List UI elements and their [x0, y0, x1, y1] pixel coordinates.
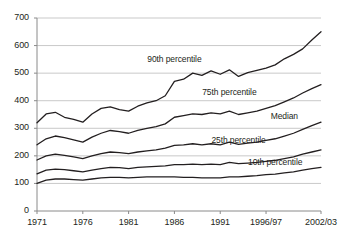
x-tick-label: 1991 [197, 217, 243, 227]
x-tick-label: 1996/97 [243, 217, 289, 227]
y-tick-label: 200 [5, 150, 29, 160]
x-tick-label: 1981 [106, 217, 152, 227]
x-tick-label: 2002/03 [298, 217, 339, 227]
y-tick-label: 600 [5, 40, 29, 50]
x-tick-label: 1976 [60, 217, 106, 227]
x-tick-label: 1986 [151, 217, 197, 227]
series-line [37, 167, 321, 183]
y-tick-label: 400 [5, 95, 29, 105]
series-label: 75th percentile [202, 87, 256, 97]
y-tick-label: 300 [5, 122, 29, 132]
series-label: Median [271, 111, 298, 121]
y-tick-label: 500 [5, 67, 29, 77]
x-tick-label: 1971 [14, 217, 60, 227]
series-label: 25th percentile [211, 135, 265, 145]
y-tick-label: 0 [5, 205, 29, 215]
line-chart: 0100200300400500600700 19711976198119861… [0, 0, 339, 241]
y-tick-label: 700 [5, 12, 29, 22]
y-tick-label: 100 [5, 177, 29, 187]
series-label: 10th percentile [248, 157, 302, 167]
series-label: 90th percentile [147, 54, 201, 64]
